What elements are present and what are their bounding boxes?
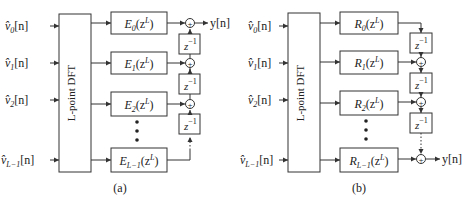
input-label-a-1: v̂1[n] bbox=[5, 56, 28, 72]
adder-a-1: + bbox=[186, 59, 195, 69]
signal-wire bbox=[167, 150, 190, 160]
svg-text:v̂L−1[n]: v̂L−1[n] bbox=[240, 153, 273, 169]
output-label-a: y[n] bbox=[210, 16, 230, 30]
delay-block-a-0: z−1 bbox=[179, 34, 200, 54]
filter-block-a-2: E2(zL) bbox=[111, 92, 167, 116]
ellipsis-dots-b bbox=[364, 119, 368, 141]
svg-text:v̂1[n]: v̂1[n] bbox=[248, 56, 271, 72]
filter-block-a-0: E0(zL) bbox=[111, 12, 167, 34]
filter-block-b-1: R1(zL) bbox=[340, 51, 398, 74]
panel-a: v̂0[n] v̂1[n] v̂2[n] v̂L−1[n] L-point DF… bbox=[1, 12, 230, 195]
input-label-a-3: v̂L−1[n] bbox=[1, 153, 34, 169]
svg-text:v̂0[n]: v̂0[n] bbox=[5, 19, 28, 35]
input-label-a-0: v̂0[n] bbox=[5, 19, 28, 35]
dft-label-b: L-point DFT bbox=[294, 64, 306, 121]
filter-block-b-0: R0(zL) bbox=[340, 12, 398, 34]
delay-block-a-2: z−1 bbox=[179, 114, 200, 134]
svg-text:+: + bbox=[418, 58, 423, 68]
polyphase-filterbank-diagram: v̂0[n] v̂1[n] v̂2[n] v̂L−1[n] L-point DF… bbox=[0, 0, 474, 201]
svg-text:+: + bbox=[418, 98, 423, 108]
svg-text:+: + bbox=[418, 155, 423, 165]
input-label-a-2: v̂2[n] bbox=[5, 93, 28, 109]
svg-text:R2(zL): R2(zL) bbox=[353, 96, 383, 113]
svg-text:+: + bbox=[187, 59, 192, 69]
output-label-b: y[n] bbox=[442, 152, 462, 166]
svg-text:v̂2[n]: v̂2[n] bbox=[5, 93, 28, 109]
panel-b: v̂0[n] v̂1[n] v̂2[n] v̂L−1[n] L-point DF… bbox=[240, 12, 462, 195]
adder-b-1: + bbox=[417, 58, 426, 68]
adder-b-2: + bbox=[417, 98, 426, 108]
svg-text:v̂2[n]: v̂2[n] bbox=[248, 93, 271, 109]
adder-a-2: + bbox=[186, 100, 195, 110]
adder-a-0: + bbox=[186, 19, 195, 29]
input-label-b-2: v̂2[n] bbox=[248, 93, 271, 109]
svg-text:+: + bbox=[187, 100, 192, 110]
filter-block-a-1: E1(zL) bbox=[111, 52, 167, 74]
delay-block-a-1: z−1 bbox=[179, 74, 200, 94]
svg-text:E0(zL): E0(zL) bbox=[123, 16, 153, 33]
signal-wire bbox=[398, 23, 421, 33]
filter-block-a-3: EL−1(zL) bbox=[111, 148, 167, 172]
delay-block-b-0: z−1 bbox=[410, 33, 432, 53]
input-label-b-0: v̂0[n] bbox=[248, 19, 271, 35]
caption-b: (b) bbox=[352, 181, 366, 195]
input-label-b-1: v̂1[n] bbox=[248, 56, 271, 72]
svg-text:v̂0[n]: v̂0[n] bbox=[248, 19, 271, 35]
svg-text:R1(zL): R1(zL) bbox=[353, 55, 383, 72]
svg-text:v̂1[n]: v̂1[n] bbox=[5, 56, 28, 72]
ellipsis-dots-a bbox=[135, 120, 139, 142]
svg-text:E2(zL): E2(zL) bbox=[123, 97, 153, 114]
filter-block-b-3: RL−1(zL) bbox=[340, 148, 398, 172]
adder-b-final: + bbox=[417, 155, 426, 165]
delay-block-b-2: z−1 bbox=[410, 113, 432, 133]
svg-text:v̂L−1[n]: v̂L−1[n] bbox=[1, 153, 34, 169]
svg-text:E1(zL): E1(zL) bbox=[123, 56, 153, 73]
input-label-b-3: v̂L−1[n] bbox=[240, 153, 273, 169]
caption-a: (a) bbox=[113, 181, 126, 195]
dft-label-a: L-point DFT bbox=[65, 64, 77, 121]
filter-block-b-2: R2(zL) bbox=[340, 91, 398, 115]
delay-block-b-1: z−1 bbox=[410, 73, 432, 93]
svg-text:+: + bbox=[187, 19, 192, 29]
svg-text:R0(zL): R0(zL) bbox=[353, 16, 383, 33]
